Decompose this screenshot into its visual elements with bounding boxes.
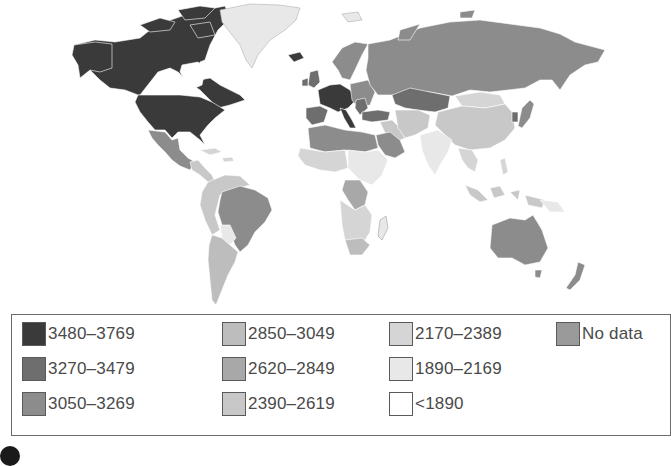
figure-number-bullet-icon	[0, 446, 20, 466]
legend-label: 2170–2389	[415, 324, 502, 344]
region-australia	[490, 215, 548, 265]
region-greenland	[220, 4, 300, 68]
region-new-guinea	[540, 200, 565, 212]
legend-label: 3050–3269	[48, 394, 135, 414]
region-india	[420, 130, 452, 175]
legend-swatch	[22, 357, 46, 381]
legend-item: 3480–3769	[22, 321, 135, 347]
legend-swatch	[22, 392, 46, 416]
world-map-svg	[0, 0, 663, 310]
region-philippines	[500, 158, 508, 175]
region-west-africa	[298, 148, 348, 172]
region-tasmania	[535, 270, 542, 278]
region-central-america	[190, 160, 215, 182]
region-iceland	[288, 52, 304, 62]
legend-item: No data	[556, 321, 643, 347]
legend-item: 2850–3049	[222, 321, 335, 347]
legend-swatch	[222, 357, 246, 381]
legend-label: 2850–3049	[248, 324, 335, 344]
legend-label: 3480–3769	[48, 324, 135, 344]
region-iberia	[306, 106, 328, 125]
legend-item: 3270–3479	[22, 356, 135, 382]
legend-label: 2620–2849	[248, 359, 335, 379]
world-choropleth-map	[0, 0, 663, 310]
region-caribbean	[200, 148, 234, 162]
region-svalbard	[342, 12, 362, 22]
legend-swatch	[556, 322, 580, 346]
region-japan	[518, 100, 534, 128]
legend-label: No data	[582, 324, 643, 344]
legend-swatch	[22, 322, 46, 346]
legend-swatch	[222, 392, 246, 416]
region-new-zealand	[566, 262, 585, 290]
legend-item: <1890	[389, 391, 464, 417]
legend-item: 3050–3269	[22, 391, 135, 417]
region-madagascar	[378, 216, 388, 240]
hudson-bay	[180, 62, 205, 88]
region-turkey	[362, 110, 390, 122]
region-usa	[135, 95, 225, 145]
region-south-africa	[345, 238, 370, 255]
legend-swatch	[389, 392, 413, 416]
region-korea	[512, 112, 518, 122]
region-uk	[308, 70, 320, 88]
legend-swatch	[389, 357, 413, 381]
map-legend: 3480–3769 3270–3479 3050–3269 2850–3049 …	[11, 314, 671, 436]
legend-label: <1890	[415, 394, 464, 414]
legend-item: 2620–2849	[222, 356, 335, 382]
region-north-africa	[308, 125, 378, 152]
legend-label: 1890–2169	[415, 359, 502, 379]
region-indonesia	[465, 185, 545, 208]
region-scandinavia	[332, 42, 368, 80]
legend-swatch	[389, 322, 413, 346]
figure-caption	[0, 444, 663, 464]
region-italy	[340, 108, 356, 128]
legend-label: 3270–3479	[48, 359, 135, 379]
legend-item: 2170–2389	[389, 321, 502, 347]
legend-swatch	[222, 322, 246, 346]
legend-item: 1890–2169	[389, 356, 502, 382]
region-southeast-asia	[458, 148, 478, 172]
region-argentina-chile	[208, 235, 238, 305]
legend-item: 2390–2619	[222, 391, 335, 417]
region-ireland	[302, 78, 308, 86]
legend-label: 2390–2619	[248, 394, 335, 414]
